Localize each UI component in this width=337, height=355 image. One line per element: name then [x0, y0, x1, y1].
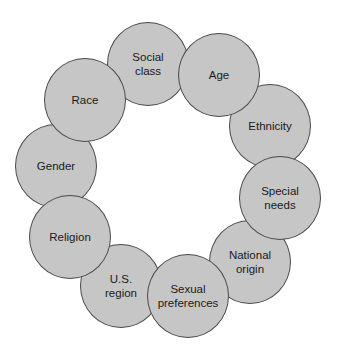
- node-label: Age: [209, 68, 229, 82]
- node-label: Social class: [132, 50, 163, 78]
- node-label: Special needs: [261, 184, 299, 212]
- node-label: U.S. region: [105, 272, 137, 300]
- node-sexual-preferences: Sexual preferences: [147, 254, 229, 338]
- node-race: Race: [44, 58, 126, 142]
- node-label: National origin: [229, 248, 271, 276]
- node-age: Age: [178, 33, 260, 117]
- node-label: Ethnicity: [248, 119, 291, 133]
- node-religion: Religion: [29, 195, 111, 279]
- node-label: Sexual preferences: [158, 282, 219, 310]
- node-special-needs: Special needs: [239, 156, 321, 240]
- diversity-ring-diagram: Social class Age Ethnicity Special needs…: [0, 0, 337, 355]
- node-label: Gender: [37, 159, 75, 173]
- node-label: Race: [72, 93, 99, 107]
- node-label: Religion: [49, 230, 91, 244]
